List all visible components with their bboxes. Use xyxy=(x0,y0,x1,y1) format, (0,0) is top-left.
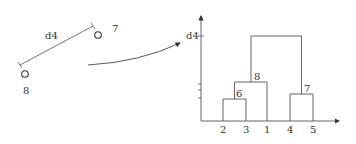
node-label-8: 8 xyxy=(254,72,260,82)
node-label-7: 7 xyxy=(304,84,310,94)
y-axis-label-d4: d4 xyxy=(186,31,199,41)
leaf-label-2: 2 xyxy=(220,125,226,135)
curved-arrow-icon xyxy=(88,43,180,65)
diagram-canvas xyxy=(0,0,356,144)
dendrogram-links xyxy=(223,36,313,121)
leaf-label-5: 5 xyxy=(310,125,316,135)
leaf-label-3: 3 xyxy=(243,125,249,135)
point-8-icon xyxy=(22,71,29,78)
point-7-label: 7 xyxy=(112,24,118,34)
leaf-label-4: 4 xyxy=(287,125,293,135)
node-label-6: 6 xyxy=(236,89,242,99)
distance-label: d4 xyxy=(45,31,58,41)
point-8-label: 8 xyxy=(23,86,29,96)
leaf-label-1: 1 xyxy=(264,125,270,135)
point-7-icon xyxy=(95,32,102,39)
